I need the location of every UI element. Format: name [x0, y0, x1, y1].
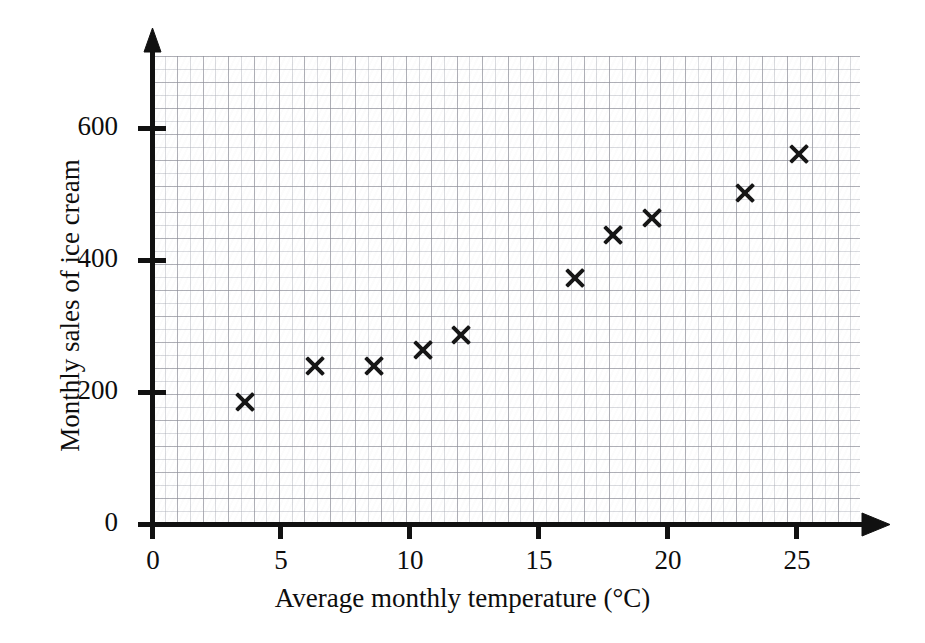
data-point-marker	[562, 265, 588, 291]
data-point-marker	[786, 141, 812, 167]
data-point-marker	[410, 337, 436, 363]
x-tick-label-20: 20	[641, 547, 695, 574]
data-point-marker	[361, 353, 387, 379]
data-point-marker	[232, 389, 258, 415]
scatter-plot-figure: 600 400 200 0 0 5 10 15 20 25 Average mo…	[0, 0, 925, 643]
x-tick-label-15: 15	[512, 547, 566, 574]
data-point-marker	[302, 353, 328, 379]
y-axis-title: Monthly sales of ice cream	[55, 96, 86, 516]
data-point-marker	[639, 205, 665, 231]
x-tick-label-25: 25	[770, 547, 824, 574]
graph-paper-grid	[152, 56, 860, 524]
data-point-marker	[449, 322, 475, 348]
data-point-marker	[601, 222, 627, 248]
data-point-marker	[732, 180, 758, 206]
x-tick-label-10: 10	[383, 547, 437, 574]
x-tick-label-5: 5	[260, 547, 302, 574]
x-tick-label-0: 0	[132, 547, 174, 574]
x-axis-title: Average monthly temperature (°C)	[0, 583, 925, 614]
